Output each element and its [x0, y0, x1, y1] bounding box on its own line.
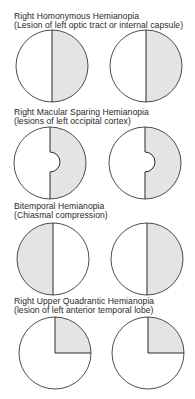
panel-4-left-eye-field [19, 317, 91, 389]
panel-2-right-eye-field [109, 127, 181, 199]
panel-3-left-eye-field [17, 223, 89, 295]
panel-4-right-eye-field [112, 317, 184, 389]
panel-1-right-eye-field [110, 30, 182, 102]
panel-1-left-eye-field [16, 30, 88, 102]
panel-3-right-eye-field [111, 223, 183, 295]
visual-field-diagram [0, 0, 195, 399]
panel-2-left-eye-field [14, 127, 86, 199]
